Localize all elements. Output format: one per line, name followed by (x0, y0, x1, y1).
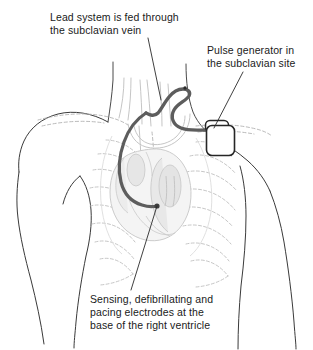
vessel-1 (119, 78, 124, 118)
lead-proximal-marker (183, 86, 186, 89)
rib-r5 (182, 207, 233, 227)
annotation-pulse-generator: Pulse generator in the subclavian site (207, 44, 295, 70)
rib-r7 (186, 243, 229, 261)
rib-l7 (95, 241, 134, 259)
rib-r8 (191, 260, 228, 276)
left-clavicle-lower (42, 121, 104, 126)
right-arm-outline (270, 191, 296, 349)
defibrillator-lead (146, 89, 206, 130)
pulse-generator-body (207, 126, 235, 156)
icd-placement-figure: Lead system is fed through the subclavia… (0, 0, 313, 350)
leader-line-lead-system (148, 38, 161, 100)
left-arm-outline (17, 172, 44, 344)
left-atrial-appendage (127, 154, 145, 186)
left-chest-crease (63, 176, 80, 204)
pulse-generator-group (206, 121, 235, 156)
ventricular-chamber (159, 165, 181, 207)
annotation-electrodes: Sensing, defibrillating and pacing elect… (90, 293, 213, 332)
leader-line-pulse-generator (214, 72, 243, 128)
annotation-lead-system: Lead system is fed through the subclavia… (50, 11, 179, 37)
vessel-2 (128, 78, 131, 120)
costal-margin-right (196, 276, 228, 287)
right-armpit-outline (238, 166, 246, 349)
vessel-4 (147, 80, 151, 126)
neck-left-outline (108, 62, 113, 122)
rib-l8 (100, 258, 133, 274)
left-shoulder-outline (19, 112, 108, 172)
left-armpit-outline (74, 176, 91, 348)
vessel-6 (168, 84, 171, 126)
vessel-5 (160, 82, 162, 126)
costal-margin-left (100, 274, 133, 285)
